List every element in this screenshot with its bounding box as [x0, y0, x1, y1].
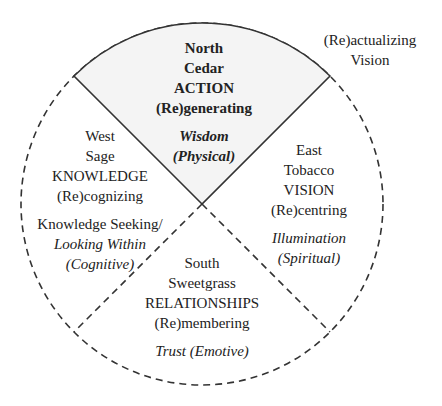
outside-label: (Re)actualizing Vision: [324, 30, 416, 70]
west-aspect: (Cognitive): [37, 254, 162, 274]
west-quality-line2: Looking Within: [37, 234, 162, 254]
west-section: West Sage KNOWLEDGE (Re)cognizing Knowle…: [37, 126, 162, 274]
south-domain: RELATIONSHIPS: [145, 293, 259, 313]
west-quality-line1: Knowledge Seeking/: [37, 214, 162, 234]
north-quality: Wisdom: [156, 126, 252, 146]
south-section: South Sweetgrass RELATIONSHIPS (Re)membe…: [145, 253, 259, 361]
north-direction: North: [156, 38, 252, 58]
west-domain: KNOWLEDGE: [37, 166, 162, 186]
south-medicine: Sweetgrass: [145, 273, 259, 293]
east-direction: East: [271, 140, 347, 160]
north-medicine: Cedar: [156, 58, 252, 78]
east-quality: Illumination: [271, 228, 347, 248]
north-domain: ACTION: [156, 78, 252, 98]
north-process: (Re)generating: [156, 98, 252, 118]
east-medicine: Tobacco: [271, 160, 347, 180]
north-aspect: (Physical): [156, 146, 252, 166]
outside-label-line2: Vision: [324, 50, 416, 70]
east-domain: VISION: [271, 180, 347, 200]
south-direction: South: [145, 253, 259, 273]
west-medicine: Sage: [37, 146, 162, 166]
south-quality: Trust (Emotive): [145, 341, 259, 361]
west-direction: West: [37, 126, 162, 146]
north-section: North Cedar ACTION (Re)generating Wisdom…: [156, 38, 252, 166]
east-aspect: (Spiritual): [271, 248, 347, 268]
west-process: (Re)cognizing: [37, 186, 162, 206]
east-section: East Tobacco VISION (Re)centring Illumin…: [271, 140, 347, 268]
outside-label-line1: (Re)actualizing: [324, 30, 416, 50]
east-process: (Re)centring: [271, 200, 347, 220]
south-process: (Re)membering: [145, 313, 259, 333]
